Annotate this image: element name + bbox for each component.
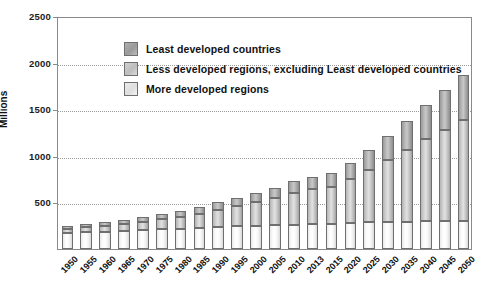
segment-less-developed-1970	[137, 222, 149, 230]
segment-less-developed-2040	[420, 139, 432, 221]
segment-least-developed-2030	[382, 136, 394, 160]
segment-more-developed-2045	[439, 221, 451, 249]
bar-1995[interactable]	[231, 198, 243, 249]
stacked-bar-chart: Millions 5001000150020002500 Least devel…	[0, 0, 492, 296]
bar-2020[interactable]	[345, 163, 357, 249]
bar-1990[interactable]	[212, 202, 224, 249]
segment-less-developed-1985	[194, 214, 206, 228]
bar-1965[interactable]	[118, 220, 130, 249]
segment-least-developed-1960	[99, 222, 111, 226]
bar-2015[interactable]	[326, 173, 338, 249]
legend-swatch-less-icon	[124, 62, 138, 76]
segment-more-developed-2015	[326, 224, 338, 249]
segment-less-developed-1955	[80, 227, 92, 232]
bar-2030[interactable]	[382, 136, 394, 249]
segment-less-developed-2045	[439, 130, 451, 221]
legend-item-least: Least developed countries	[124, 40, 462, 57]
segment-more-developed-2010	[288, 225, 300, 249]
legend-swatch-least-icon	[124, 42, 138, 56]
segment-least-developed-1995	[231, 198, 243, 206]
segment-more-developed-1995	[231, 226, 243, 249]
legend-label-least: Least developed countries	[146, 43, 281, 55]
segment-less-developed-2050	[458, 120, 470, 221]
bar-2035[interactable]	[401, 121, 413, 249]
segment-least-developed-2000	[250, 193, 262, 202]
segment-less-developed-2013	[307, 189, 319, 224]
bar-1970[interactable]	[137, 217, 149, 249]
bar-2000[interactable]	[250, 193, 262, 249]
bar-1950[interactable]	[62, 226, 74, 249]
segment-less-developed-1975	[156, 219, 168, 229]
segment-less-developed-1980	[175, 217, 187, 229]
segment-more-developed-2020	[345, 223, 357, 249]
chart-legend: Least developed countries Less developed…	[124, 40, 462, 100]
y-tick-1500: 1500	[17, 104, 51, 115]
segment-less-developed-2030	[382, 160, 394, 222]
bar-1985[interactable]	[194, 207, 206, 249]
bar-1955[interactable]	[80, 224, 92, 249]
segment-less-developed-2000	[250, 202, 262, 225]
segment-least-developed-1955	[80, 224, 92, 227]
segment-least-developed-2013	[307, 177, 319, 190]
bar-1975[interactable]	[156, 214, 168, 249]
bar-2010[interactable]	[288, 181, 300, 249]
bar-1980[interactable]	[175, 211, 187, 249]
segment-more-developed-2025	[363, 222, 375, 249]
segment-more-developed-1980	[175, 229, 187, 250]
legend-swatch-more-icon	[124, 82, 138, 96]
segment-less-developed-2015	[326, 187, 338, 224]
segment-less-developed-1990	[212, 210, 224, 227]
segment-less-developed-2010	[288, 193, 300, 225]
segment-less-developed-2020	[345, 179, 357, 223]
segment-more-developed-1990	[212, 227, 224, 249]
segment-less-developed-2035	[401, 150, 413, 222]
segment-least-developed-2015	[326, 173, 338, 187]
segment-least-developed-1950	[62, 226, 74, 229]
segment-least-developed-1965	[118, 220, 130, 224]
y-tick-2500: 2500	[17, 11, 51, 22]
segment-more-developed-2000	[250, 226, 262, 249]
segment-more-developed-1960	[99, 232, 111, 249]
legend-item-less: Less developed regions, excluding Least …	[124, 60, 462, 77]
segment-least-developed-1985	[194, 207, 206, 214]
segment-more-developed-1975	[156, 229, 168, 249]
segment-more-developed-2030	[382, 222, 394, 249]
segment-least-developed-2025	[363, 150, 375, 170]
segment-least-developed-1975	[156, 214, 168, 219]
bar-2013[interactable]	[307, 177, 319, 249]
segment-more-developed-2035	[401, 222, 413, 249]
segment-more-developed-1955	[80, 232, 92, 249]
bar-2040[interactable]	[420, 105, 432, 249]
segment-more-developed-1950	[62, 233, 74, 249]
y-tick-500: 500	[17, 197, 51, 208]
segment-least-developed-1980	[175, 211, 187, 217]
bar-2050[interactable]	[458, 75, 470, 249]
segment-least-developed-2040	[420, 105, 432, 139]
segment-least-developed-2035	[401, 121, 413, 150]
legend-label-less: Less developed regions, excluding Least …	[146, 63, 462, 75]
segment-less-developed-1950	[62, 229, 74, 233]
segment-least-developed-2005	[269, 188, 281, 198]
segment-more-developed-2040	[420, 221, 432, 249]
plot-area: Least developed countries Less developed…	[57, 17, 472, 250]
segment-more-developed-1985	[194, 228, 206, 249]
y-tick-2000: 2000	[17, 58, 51, 69]
bar-2045[interactable]	[439, 90, 451, 249]
bar-1960[interactable]	[99, 222, 111, 249]
y-tick-1000: 1000	[17, 151, 51, 162]
segment-less-developed-1965	[118, 224, 130, 231]
segment-least-developed-2010	[288, 181, 300, 193]
segment-least-developed-2020	[345, 163, 357, 179]
segment-more-developed-1965	[118, 231, 130, 249]
segment-less-developed-2005	[269, 198, 281, 225]
segment-less-developed-1960	[99, 226, 111, 232]
bar-2005[interactable]	[269, 188, 281, 249]
legend-label-more: More developed regions	[146, 83, 269, 95]
legend-item-more: More developed regions	[124, 80, 462, 97]
segment-more-developed-1970	[137, 230, 149, 249]
segment-less-developed-2025	[363, 170, 375, 222]
segment-more-developed-2005	[269, 225, 281, 249]
bar-2025[interactable]	[363, 150, 375, 249]
segment-more-developed-2050	[458, 221, 470, 249]
segment-less-developed-1995	[231, 206, 243, 226]
